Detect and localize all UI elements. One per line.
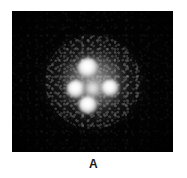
figure-panel: A (0, 0, 187, 178)
grayscale-image-frame (12, 11, 173, 152)
panel-label: A (0, 157, 187, 171)
speckle-texture (45, 35, 141, 129)
